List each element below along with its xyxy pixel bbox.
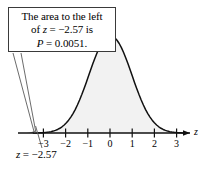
x-tick-label-1: 1 [125,138,139,149]
callout-line-3-suffix: = 0.0051. [43,37,87,49]
x-axis-arrowhead [183,130,190,136]
callout-line-2: of z = −2.57 is [31,23,93,36]
callout-annotation-box: The area to the left of z = −2.57 is P =… [8,7,116,52]
boundary-label-value: = −2.57 [20,148,56,160]
x-tick-label-3: 3 [170,138,184,149]
callout-pointer-lines [13,53,36,133]
x-tick-label-0: 0 [103,138,117,149]
x-axis-name: z [194,126,198,137]
boundary-value-label: z = −2.57 [16,148,57,161]
x-tick-label-minus2: −2 [59,138,73,149]
callout-line-3: P = 0.0051. [37,37,87,50]
callout-line-2-prefix: of [31,23,43,35]
x-tick-label-2: 2 [147,138,161,149]
x-tick-label-minus1: −1 [81,138,95,149]
callout-line-2-suffix: = −2.57 is [47,23,93,35]
callout-line-1: The area to the left [21,10,102,23]
normal-distribution-figure: The area to the left of z = −2.57 is P =… [0,0,210,175]
